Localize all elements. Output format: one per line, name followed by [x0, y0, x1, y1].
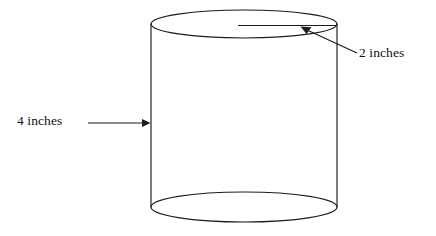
height-arrow-icon: [142, 119, 151, 127]
cylinder-bottom-ellipse: [151, 192, 337, 222]
radius-arrow-icon: [301, 27, 312, 35]
height-dimension-label: 4 inches: [17, 113, 62, 129]
radius-dimension-label: 2 inches: [359, 45, 404, 61]
cylinder-figure: 4 inches 2 inches: [0, 0, 436, 236]
radius-leader-line: [307, 30, 357, 53]
cylinder-drawing: [0, 0, 436, 236]
cylinder-top-ellipse: [151, 10, 337, 38]
